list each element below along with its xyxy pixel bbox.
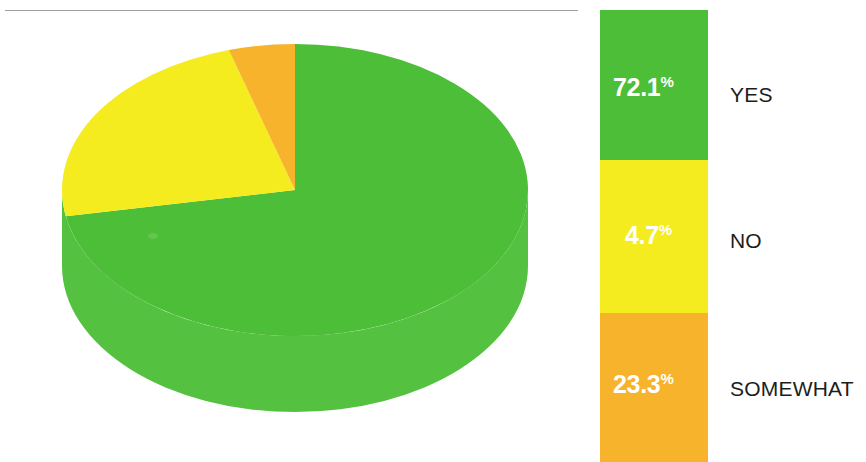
legend-label-somewhat: SOMEWHAT — [730, 378, 854, 399]
legend-label-no: NO — [730, 230, 762, 251]
legend-percent-no: 4.7% — [625, 222, 672, 248]
legend-percent-somewhat: 23.3% — [613, 371, 674, 397]
percent-sign-no: % — [659, 221, 672, 238]
percent-sign-somewhat: % — [660, 370, 673, 387]
percent-sign-yes: % — [660, 73, 673, 90]
pie-chart-svg — [0, 0, 590, 462]
legend-percent-yes-value: 72.1 — [613, 73, 660, 101]
legend-label-yes: YES — [730, 84, 773, 105]
pie-surface-speck — [148, 233, 158, 239]
legend-percent-yes: 72.1% — [613, 74, 674, 100]
pie-chart-figure: 72.1% 4.7% 23.3% YES NO SOMEWHAT — [0, 0, 866, 462]
pie-chart-area — [0, 0, 590, 462]
legend-percent-somewhat-value: 23.3 — [613, 370, 660, 398]
legend-percent-no-value: 4.7 — [625, 221, 659, 249]
